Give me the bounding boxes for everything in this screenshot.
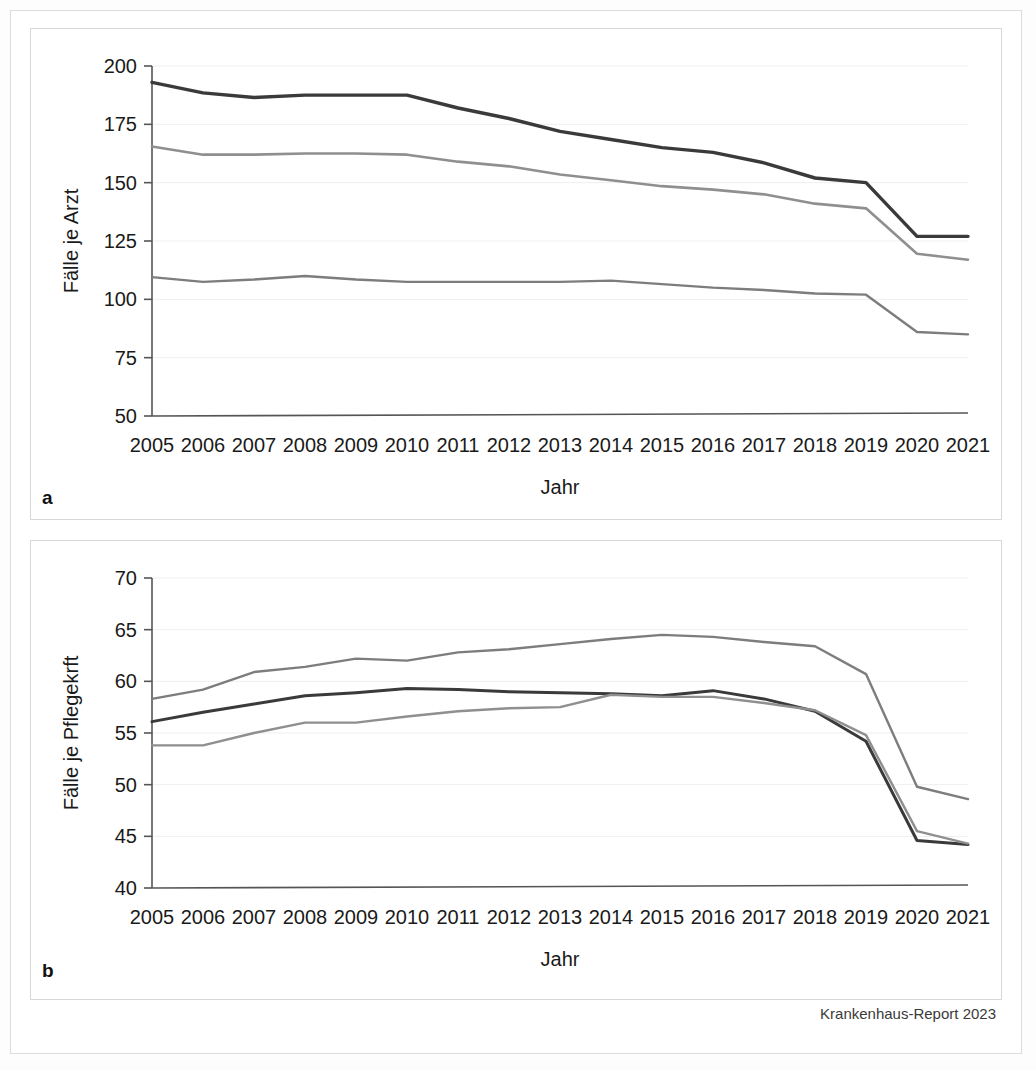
y-tick-label: 150	[104, 172, 137, 194]
x-tick-label: 2014	[589, 434, 634, 456]
y-tick-label: 70	[115, 567, 137, 589]
y-tick-label: 40	[115, 877, 137, 899]
series-line	[152, 147, 968, 260]
legend-label: über 500 Betten	[816, 996, 951, 1000]
y-tick-label: 200	[104, 55, 137, 77]
x-tick-label: 2008	[283, 906, 328, 928]
y-tick-label: 45	[115, 825, 137, 847]
x-tick-label: 2015	[640, 906, 685, 928]
x-tick-label: 2016	[691, 906, 736, 928]
series-line	[152, 635, 968, 799]
x-tick-label: 2005	[130, 906, 175, 928]
legend-label: 200-500 Betten	[582, 996, 712, 1000]
x-tick-label: 2010	[385, 906, 430, 928]
series-line	[152, 276, 968, 334]
x-tick-label: 2010	[385, 434, 430, 456]
series-group	[152, 82, 968, 334]
x-tick-label: 2012	[487, 906, 532, 928]
x-tick-label: 2012	[487, 434, 532, 456]
y-tick-label: 100	[104, 288, 137, 310]
series-group	[152, 635, 968, 845]
x-tick-label: 2013	[538, 906, 583, 928]
y-tick-label: 175	[104, 113, 137, 135]
x-tick-label: 2006	[181, 906, 226, 928]
x-tick-label: 2021	[946, 906, 991, 928]
panel-b-svg: 40455055606570Fälle je Pflegekrft2005200…	[30, 540, 1002, 1000]
x-tick-label: 2007	[232, 906, 277, 928]
x-tick-label: 2020	[895, 434, 940, 456]
gridlines	[152, 66, 968, 358]
chart-b-container: 40455055606570Fälle je Pflegekrft2005200…	[30, 540, 1002, 1000]
y-tick-label: 125	[104, 230, 137, 252]
figure-root: 5075100125150175200Fälle je Arzt20052006…	[0, 0, 1036, 1070]
x-tick-label: 2007	[232, 434, 277, 456]
x-tick-label: 2020	[895, 906, 940, 928]
x-tick-label: 2019	[844, 434, 889, 456]
x-tick-label: 2006	[181, 434, 226, 456]
chart-a-container: 5075100125150175200Fälle je Arzt20052006…	[30, 28, 1002, 520]
y-axis-title: Fälle je Arzt	[60, 188, 82, 293]
x-tick-label: 2018	[793, 434, 838, 456]
x-tick-label: 2017	[742, 434, 787, 456]
x-tick-label: 2005	[130, 434, 175, 456]
figure-credit: Krankenhaus-Report 2023	[820, 1005, 996, 1022]
x-axis-title: Jahr	[541, 476, 580, 498]
series-line	[152, 695, 968, 844]
legend-label: unter 200 Betten	[294, 996, 435, 1000]
x-tick-label: 2009	[334, 434, 379, 456]
x-tick-label: 2021	[946, 434, 991, 456]
x-tick-label: 2011	[436, 906, 479, 928]
x-tick-label: 2015	[640, 434, 685, 456]
x-tick-label: 2016	[691, 434, 736, 456]
x-tick-label: 2014	[589, 906, 634, 928]
y-tick-label: 65	[115, 619, 137, 641]
series-line	[152, 82, 968, 236]
y-tick-label: 50	[115, 774, 137, 796]
x-axis-labels: 2005200620072008200920102011201220132014…	[130, 906, 991, 928]
panel-a-svg: 5075100125150175200Fälle je Arzt20052006…	[30, 28, 1002, 520]
series-line	[152, 689, 968, 845]
x-tick-label: 2011	[436, 434, 479, 456]
x-tick-label: 2009	[334, 906, 379, 928]
panel-label-a: a	[42, 487, 53, 509]
x-axis-labels: 2005200620072008200920102011201220132014…	[130, 434, 991, 456]
panel-label-b: b	[42, 960, 54, 982]
x-tick-label: 2013	[538, 434, 583, 456]
y-tick-label: 75	[115, 347, 137, 369]
x-tick-label: 2019	[844, 906, 889, 928]
legend: unter 200 Betten200-500 Bettenüber 500 B…	[222, 996, 951, 1000]
x-tick-label: 2008	[283, 434, 328, 456]
x-tick-label: 2018	[793, 906, 838, 928]
y-tick-label: 60	[115, 670, 137, 692]
x-tick-label: 2017	[742, 906, 787, 928]
y-tick-label: 55	[115, 722, 137, 744]
x-axis-title: Jahr	[541, 948, 580, 970]
y-axis-title: Fälle je Pflegekrft	[60, 655, 82, 810]
y-tick-label: 50	[115, 405, 137, 427]
